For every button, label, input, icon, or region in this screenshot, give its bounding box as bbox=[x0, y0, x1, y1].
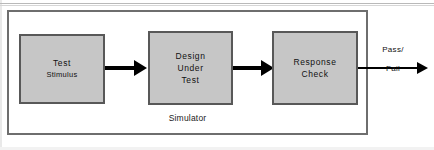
block-design-under-test: Design Under Test bbox=[148, 31, 233, 105]
connector-arrow-stimulus-to-dut-head bbox=[134, 60, 147, 76]
connector-arrow-stimulus-to-dut-shaft bbox=[105, 66, 137, 70]
scan-artifact-top-line bbox=[0, 3, 434, 4]
block-design-under-test-line3: Test bbox=[182, 74, 200, 86]
scan-artifact-left-edge bbox=[0, 0, 2, 150]
scan-artifact-top-line-secondary bbox=[0, 5, 434, 6]
block-design-under-test-line1: Design bbox=[175, 50, 205, 62]
block-test-stimulus: Test Stimulus bbox=[19, 34, 105, 104]
diagram-canvas: Test Stimulus Design Under Test Response… bbox=[0, 0, 434, 150]
output-arrow-head bbox=[417, 62, 428, 74]
block-response-check-line2: Check bbox=[301, 68, 328, 80]
simulator-label: Simulator bbox=[7, 113, 368, 123]
block-response-check-line1: Response bbox=[293, 56, 336, 68]
block-design-under-test-line2: Under bbox=[177, 62, 203, 74]
block-test-stimulus-line1: Test bbox=[53, 57, 71, 69]
output-label-fail: Fail bbox=[372, 64, 414, 73]
connector-arrow-dut-to-response-shaft bbox=[233, 66, 264, 70]
block-test-stimulus-line2: Stimulus bbox=[46, 70, 77, 81]
block-response-check: Response Check bbox=[272, 31, 358, 105]
output-label-pass-fail: Pass/ Fail bbox=[372, 45, 414, 73]
output-label-pass: Pass/ bbox=[372, 45, 414, 54]
scan-artifact-bottom-line bbox=[0, 147, 434, 150]
